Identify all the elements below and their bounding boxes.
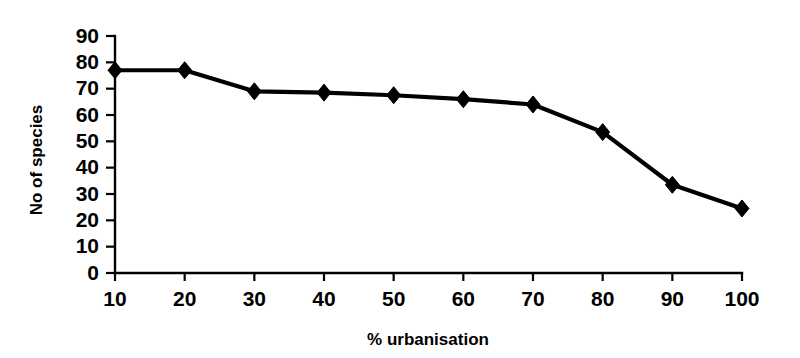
y-tick-label: 90 [76,24,99,47]
y-axis-title: No of species [27,105,46,216]
y-tick-label: 30 [76,182,99,205]
y-tick-label: 50 [76,129,99,152]
x-tick-label: 100 [724,287,759,310]
x-tick-label: 10 [103,287,126,310]
x-tick-label: 60 [452,287,475,310]
y-tick-label: 10 [76,234,99,257]
y-tick-label: 40 [76,155,99,178]
x-tick-label: 70 [521,287,544,310]
y-tick-label: 20 [76,208,99,231]
x-tick-label: 40 [312,287,335,310]
x-tick-label: 90 [661,287,684,310]
y-tick-label: 0 [87,261,99,284]
line-chart-canvas: 0102030405060708090 10203040506070809010… [0,0,800,358]
y-tick-label: 80 [76,50,99,73]
x-tick-label: 30 [243,287,266,310]
chart-figure: 0102030405060708090 10203040506070809010… [0,0,800,358]
y-tick-label: 60 [76,103,99,126]
x-tick-label: 80 [591,287,614,310]
x-axis-title: % urbanisation [367,330,489,349]
x-tick-label: 20 [173,287,196,310]
y-tick-label: 70 [76,76,99,99]
x-tick-label: 50 [382,287,405,310]
